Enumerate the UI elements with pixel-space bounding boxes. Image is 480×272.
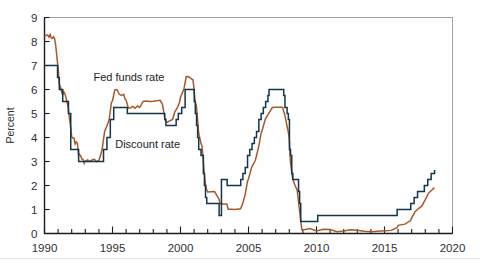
x-tick-label: 1995 <box>100 242 126 254</box>
x-tick-label: 2010 <box>304 242 330 254</box>
y-tick-label: 1 <box>31 204 37 216</box>
x-tick-label: 2020 <box>440 242 466 254</box>
plot-frame <box>45 18 453 234</box>
y-tick-label: 0 <box>31 228 37 240</box>
annotation-fed-funds-rate: Fed funds rate <box>93 71 164 83</box>
y-tick-label: 9 <box>31 12 37 24</box>
x-tick-label: 1990 <box>32 242 58 254</box>
figure-container: 0123456789 1990199520002005201020152020 … <box>0 0 480 272</box>
x-tick-label: 2005 <box>236 242 262 254</box>
y-tick-label: 3 <box>31 156 37 168</box>
x-tick-label: 2015 <box>372 242 398 254</box>
y-tick-label: 6 <box>31 84 37 96</box>
annotation-discount-rate: Discount rate <box>115 138 180 150</box>
fed-funds-discount-rate-chart: 0123456789 1990199520002005201020152020 … <box>0 0 480 272</box>
y-tick-label: 7 <box>31 60 37 72</box>
y-tick-label: 4 <box>31 132 38 144</box>
y-tick-label: 5 <box>31 108 37 120</box>
y-tick-label: 2 <box>31 180 37 192</box>
x-tick-label: 2000 <box>168 242 194 254</box>
y-axis-title: Percent <box>4 107 16 143</box>
y-tick-label: 8 <box>31 36 37 48</box>
